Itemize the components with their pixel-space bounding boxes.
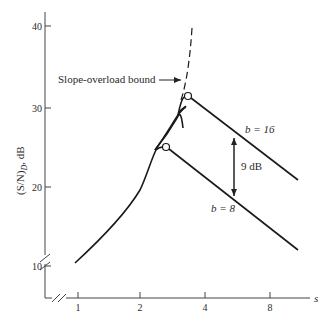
x-tick-8: 8: [268, 302, 273, 313]
y-axis-label: (S/N)D, dB: [14, 146, 29, 195]
y-tick-30: 30: [32, 103, 42, 114]
x-axis-label: s: [314, 292, 318, 304]
x-axis: 1 2 4 8 s: [45, 292, 318, 313]
y-axis: 40 30 20 10 (S/N)D, dB: [14, 12, 51, 298]
gap-label: 9 dB: [241, 160, 262, 172]
series-label-b8: b = 8: [211, 202, 235, 214]
knee-marker-b8: [163, 144, 170, 151]
y-tick-40: 40: [32, 21, 42, 32]
y-tick-10: 10: [32, 261, 42, 272]
slope-overload-bound-dashed: [181, 28, 192, 100]
y-tick-20: 20: [32, 182, 42, 193]
x-tick-1: 1: [76, 302, 81, 313]
series-label-b16: b = 16: [245, 123, 275, 135]
x-tick-2: 2: [138, 302, 143, 313]
knee-marker-b16: [185, 93, 192, 100]
series-b8-rise: [75, 147, 163, 263]
x-tick-4: 4: [203, 302, 208, 313]
chart: 40 30 20 10 (S/N)D, dB 1 2 4 8 s Slope-o…: [0, 0, 328, 324]
slope-overload-label: Slope-overload bound: [58, 73, 156, 85]
